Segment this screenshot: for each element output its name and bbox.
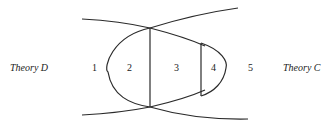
region-label-3: 3 xyxy=(174,63,179,73)
upper-right-curve xyxy=(150,8,238,28)
theory-c-label: Theory C xyxy=(283,63,321,73)
diagram-canvas xyxy=(0,0,329,126)
region-label-4: 4 xyxy=(211,63,216,73)
upper-left-curve xyxy=(82,19,205,46)
region-label-2: 2 xyxy=(127,63,132,73)
region-label-1: 1 xyxy=(92,63,97,73)
region-label-5: 5 xyxy=(248,63,253,73)
theory-d-label: Theory D xyxy=(10,63,48,73)
lower-left-curve xyxy=(82,90,205,115)
lower-right-curve xyxy=(150,107,248,119)
